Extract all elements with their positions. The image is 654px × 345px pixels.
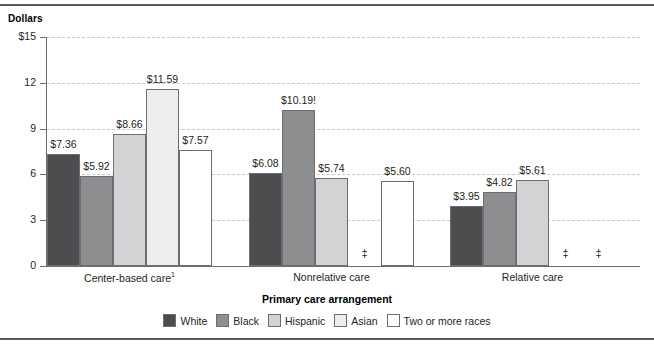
y-tick-label: 9 (0, 122, 36, 134)
y-axis-caption: Dollars (8, 13, 43, 24)
bar-value-label: $10.19! (273, 94, 325, 106)
legend-swatch (387, 314, 400, 327)
bar (113, 134, 146, 266)
bar-value-label: $11.59 (137, 73, 189, 85)
y-tick-6 (40, 174, 46, 175)
y-tick-label: 6 (0, 167, 36, 179)
category-label: Center-based care1 (50, 271, 210, 284)
bar-value-label: $7.36 (38, 138, 90, 150)
figure-chart: Dollars 036912$15 $7.36$5.92$8.66$11.59$… (0, 0, 654, 345)
legend-swatch (216, 314, 229, 327)
y-tick-label: 0 (0, 259, 36, 271)
category-label: Nonrelative care (252, 271, 412, 283)
y-tick-15 (40, 37, 46, 38)
legend-label: Black (233, 315, 259, 327)
bar (80, 176, 113, 266)
bar-value-label: $5.61 (507, 164, 559, 176)
gridline-15 (47, 37, 640, 38)
bar (146, 89, 179, 266)
suppressed-marker: ‡ (352, 247, 378, 259)
y-tick-9 (40, 129, 46, 130)
category-footnote-marker: 1 (171, 271, 175, 278)
bar (516, 180, 549, 266)
bar (282, 110, 315, 266)
y-tick-label: $15 (0, 30, 36, 42)
legend-swatch (163, 314, 176, 327)
legend-label: Hispanic (285, 315, 325, 327)
bar (179, 150, 212, 266)
legend-swatch (268, 314, 281, 327)
legend-item: Two or more races (387, 314, 491, 327)
y-tick-label: 3 (0, 213, 36, 225)
legend-label: White (180, 315, 207, 327)
suppressed-marker: ‡ (586, 247, 612, 259)
legend-item: Black (216, 314, 259, 327)
top-divider (0, 4, 654, 6)
bar-value-label: $5.74 (306, 162, 358, 174)
bar (450, 206, 483, 266)
bar-value-label: $7.57 (170, 134, 222, 146)
bottom-divider (0, 338, 654, 340)
bar (381, 181, 414, 266)
category-label: Relative care (453, 271, 613, 283)
legend-item: White (163, 314, 207, 327)
legend-item: Asian (334, 314, 377, 327)
y-tick-3 (40, 220, 46, 221)
legend-item: Hispanic (268, 314, 325, 327)
y-tick-label: 12 (0, 76, 36, 88)
x-axis-line (46, 266, 640, 267)
y-tick-12 (40, 83, 46, 84)
suppressed-marker: ‡ (553, 247, 579, 259)
legend-label: Asian (351, 315, 377, 327)
x-axis-title: Primary care arrangement (0, 293, 654, 305)
bar-value-label: $5.60 (372, 165, 424, 177)
legend-swatch (334, 314, 347, 327)
chart-legend: WhiteBlackHispanicAsianTwo or more races (0, 314, 654, 327)
y-tick-0 (40, 266, 46, 267)
bar (249, 173, 282, 266)
legend-label: Two or more races (404, 315, 491, 327)
bar (483, 192, 516, 266)
bar (315, 178, 348, 266)
